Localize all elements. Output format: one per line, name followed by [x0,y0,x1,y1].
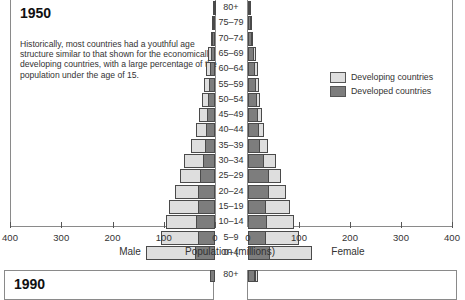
female-bar-developing [263,154,276,168]
male-axis-label: Male [100,246,160,257]
next-panel-female [247,270,457,300]
female-bar-developing [249,1,251,15]
female-axis-tick-label: 0 [233,232,263,243]
male-axis-tick-label: 400 [0,232,25,243]
female-bar-developing [259,139,268,153]
male-axis-tick [164,222,165,228]
age-label: 20–24 [214,186,248,196]
female-axis-tick-label: 100 [284,232,314,243]
age-label: 70–74 [214,33,248,43]
age-label: 35–39 [214,140,248,150]
female-bar-developing [253,47,256,61]
legend: Developing countries Developed countries [330,70,433,98]
age-label: 80+ [214,2,248,12]
male-axis-tick [113,222,114,228]
female-bar-developing [265,200,290,214]
female-axis-tick [248,222,249,228]
legend-item-developing: Developing countries [330,70,433,84]
female-bar-developing [268,169,282,183]
panel-title: 1950 [20,5,51,21]
panel-description: Historically, most countries had a youth… [20,39,220,80]
male-bar-developed [200,169,215,183]
age-label: 75–79 [214,17,248,27]
legend-label: Developing countries [351,72,433,82]
female-bar-developed [248,185,269,199]
female-bar-developed [248,215,267,229]
developed-swatch [330,86,346,97]
population-axis-title: Population (millions) [170,246,290,257]
female-bar-developed [248,200,266,214]
next-age-80plus: 80+ [214,269,248,279]
male-axis-tick-label: 300 [46,232,76,243]
male-bar-developed [198,185,215,199]
male-bar-developing [184,154,203,168]
male-axis-tick [215,222,216,228]
male-axis-tick-label: 100 [149,232,179,243]
age-label: 50–54 [214,94,248,104]
female-bar-developing [254,62,258,76]
female-bar-developing [255,78,259,92]
female-axis-tick [350,222,351,228]
female-axis-tick [299,222,300,228]
next-panel-male: 1990 [4,270,214,300]
female-axis-label: Female [318,246,378,257]
age-label: 40–44 [214,124,248,134]
male-bar-developing [175,185,199,199]
age-label: 45–49 [214,109,248,119]
male-axis-tick-label: 0 [200,232,230,243]
female-axis-tick-label: 200 [335,232,365,243]
next-bar-female-80plus [248,270,255,282]
male-bar-developing [180,169,200,183]
male-bar-developed [198,200,215,214]
female-axis-tick-label: 300 [386,232,416,243]
male-axis-tick-label: 200 [98,232,128,243]
female-axis-tick [452,222,453,228]
age-label: 10–14 [214,216,248,226]
developing-swatch [330,72,346,83]
age-label: 30–34 [214,155,248,165]
female-bar-developed [248,169,269,183]
female-bar-developing [250,16,252,30]
female-bar-developing [258,123,264,137]
female-bar-developing [257,108,262,122]
female-bar-developing [268,185,287,199]
female-axis-tick-label: 400 [437,232,465,243]
legend-item-developed: Developed countries [330,84,433,98]
male-bar-developed [196,215,215,229]
age-label: 65–69 [214,48,248,58]
female-bar-developing [256,93,260,107]
female-bar-developing [266,215,294,229]
male-axis-tick [10,222,11,228]
female-bar-developed [248,154,264,168]
age-label: 60–64 [214,63,248,73]
male-bar-developing [166,215,196,229]
age-label: 25–29 [214,170,248,180]
female-axis-tick [401,222,402,228]
legend-label: Developed countries [351,86,431,96]
next-bar-female-80plus-dev [255,270,258,282]
male-axis-tick [61,222,62,228]
next-panel-title: 1990 [14,276,45,292]
age-label: 15–19 [214,201,248,211]
male-bar-developing [169,200,199,214]
male-bar-developing [191,139,205,153]
female-bar-developing [251,32,253,46]
age-label: 55–59 [214,79,248,89]
